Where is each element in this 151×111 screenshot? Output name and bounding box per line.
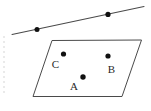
parallelogram-group [33,40,142,97]
point-b-label: B [108,63,115,75]
point-c-dot [61,51,66,56]
point-a-dot [80,74,85,79]
point-b-dot [105,53,110,58]
upper-line-group [12,7,144,35]
interior-points-group [61,51,111,79]
figure-canvas: CBA [0,0,151,111]
line-point-right-dot [105,12,110,17]
upper-line [12,7,144,35]
point-a-label: A [70,80,78,92]
point-c-label: C [52,58,59,70]
line-point-left-dot [35,27,40,32]
parallelogram-outline [33,40,142,97]
geometry-figure: CBA [0,0,151,111]
